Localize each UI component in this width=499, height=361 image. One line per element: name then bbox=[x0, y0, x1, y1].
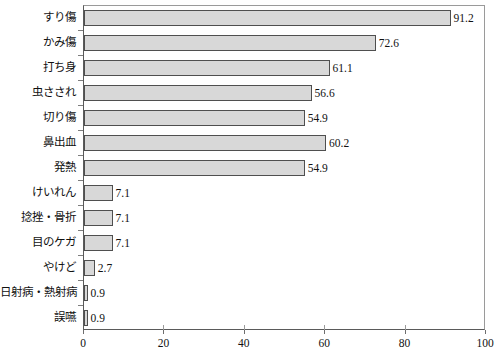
bar-value-label: 0.9 bbox=[88, 310, 105, 326]
bar-row: 54.9 bbox=[84, 156, 484, 181]
y-axis-label: 切り傷 bbox=[0, 110, 76, 124]
y-axis-label: 日射病・熱射病 bbox=[0, 285, 76, 299]
y-axis-label: 打ち身 bbox=[0, 60, 76, 74]
x-axis-label: 20 bbox=[158, 336, 170, 350]
bar-value-label: 0.9 bbox=[88, 285, 105, 301]
bar bbox=[84, 210, 113, 226]
bar-row: 7.1 bbox=[84, 231, 484, 256]
y-axis-label: 目のケガ bbox=[0, 235, 76, 249]
bar-value-label: 54.9 bbox=[305, 160, 328, 176]
x-axis-tick bbox=[163, 330, 164, 334]
bar-row: 72.6 bbox=[84, 31, 484, 56]
bar-row: 2.7 bbox=[84, 256, 484, 281]
bar-row: 61.1 bbox=[84, 56, 484, 81]
x-axis-tick-inner bbox=[244, 325, 245, 330]
x-axis-label: 100 bbox=[476, 336, 493, 350]
bar-row: 7.1 bbox=[84, 181, 484, 206]
x-axis-tick bbox=[324, 330, 325, 334]
bar-value-label: 91.2 bbox=[451, 10, 474, 26]
bar-row: 54.9 bbox=[84, 106, 484, 131]
y-axis-label: すり傷 bbox=[0, 10, 76, 24]
x-axis-tick bbox=[405, 330, 406, 334]
y-axis-label: 発熱 bbox=[0, 160, 76, 174]
bar-value-label: 60.2 bbox=[326, 135, 349, 151]
x-axis-label: 40 bbox=[238, 336, 250, 350]
bar bbox=[84, 110, 305, 126]
bar-value-label: 56.6 bbox=[312, 85, 335, 101]
bar bbox=[84, 185, 113, 201]
bar bbox=[84, 235, 113, 251]
bar bbox=[84, 10, 451, 26]
x-axis-label: 0 bbox=[80, 336, 86, 350]
bar-value-label: 72.6 bbox=[376, 35, 399, 51]
x-axis-tick bbox=[244, 330, 245, 334]
bar-value-label: 54.9 bbox=[305, 110, 328, 126]
y-axis-label: 捻挫・骨折 bbox=[0, 210, 76, 224]
x-axis-tick-inner bbox=[324, 325, 325, 330]
y-axis-label: やけど bbox=[0, 260, 76, 274]
bar-value-label: 61.1 bbox=[330, 60, 353, 76]
bar-row: 7.1 bbox=[84, 206, 484, 231]
bar bbox=[84, 85, 312, 101]
bar-value-label: 7.1 bbox=[113, 210, 130, 226]
bar bbox=[84, 260, 95, 276]
y-axis-label: 誤嚥 bbox=[0, 310, 76, 324]
bar-row: 56.6 bbox=[84, 81, 484, 106]
y-axis-label: 鼻出血 bbox=[0, 135, 76, 149]
x-axis-tick-inner bbox=[405, 325, 406, 330]
x-axis-tick bbox=[485, 330, 486, 334]
bar-row: 91.2 bbox=[84, 6, 484, 31]
bar bbox=[84, 60, 330, 76]
bar-row: 60.2 bbox=[84, 131, 484, 156]
bar-chart: すり傷かみ傷打ち身虫さされ切り傷鼻出血発熱けいれん捻挫・骨折目のケガやけど日射病… bbox=[0, 0, 499, 361]
plot-area: 91.272.661.156.654.960.254.97.17.17.12.7… bbox=[83, 5, 485, 330]
x-axis-label: 60 bbox=[318, 336, 330, 350]
x-axis-tick-inner bbox=[163, 325, 164, 330]
bar bbox=[84, 35, 376, 51]
y-axis-label: かみ傷 bbox=[0, 35, 76, 49]
y-axis-label: 虫さされ bbox=[0, 85, 76, 99]
bar-row: 0.9 bbox=[84, 306, 484, 331]
bar-value-label: 2.7 bbox=[95, 260, 112, 276]
x-axis-label: 80 bbox=[399, 336, 411, 350]
bar-value-label: 7.1 bbox=[113, 235, 130, 251]
bar-row: 0.9 bbox=[84, 281, 484, 306]
bar bbox=[84, 135, 326, 151]
bar-value-label: 7.1 bbox=[113, 185, 130, 201]
x-axis-tick bbox=[83, 330, 84, 334]
bar bbox=[84, 160, 305, 176]
y-axis-label: けいれん bbox=[0, 185, 76, 199]
